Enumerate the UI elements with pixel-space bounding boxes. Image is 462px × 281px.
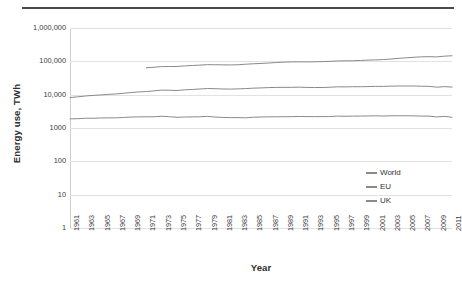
legend-label: World (380, 169, 401, 177)
y-tick-label: 1000 (50, 124, 66, 131)
x-tick-label: 1977 (195, 215, 202, 231)
x-tick-label: 1993 (317, 215, 324, 231)
legend-item-uk[interactable]: UK (366, 194, 452, 208)
x-tick-label: 1975 (180, 215, 187, 231)
legend-swatch-icon (366, 172, 377, 173)
x-tick-label: 1969 (134, 215, 141, 231)
x-tick-label: 2005 (409, 215, 416, 231)
x-tick-label: 1973 (165, 215, 172, 231)
x-tick-label: 1981 (226, 215, 233, 231)
gridline (70, 61, 452, 62)
y-tick-label: 1 (62, 224, 66, 231)
chart-figure: 1,000,000100,00010,0001000100101 Energy … (0, 0, 462, 281)
gridline (70, 95, 452, 96)
legend-label: UK (380, 197, 391, 205)
y-tick-label: 10 (58, 191, 66, 198)
gridline (70, 161, 452, 162)
y-tick-label: 100 (54, 157, 66, 164)
x-tick-labels: 1961196319651967196919711973197519771979… (70, 231, 452, 261)
x-tick-label: 1965 (104, 215, 111, 231)
gridline (70, 128, 452, 129)
x-tick-label: 1989 (287, 215, 294, 231)
x-tick-label: 1971 (149, 215, 156, 231)
x-tick-label: 2001 (379, 215, 386, 231)
x-tick-label: 1987 (272, 215, 279, 231)
chart-legend: WorldEUUK (366, 166, 452, 208)
x-tick-label: 1967 (119, 215, 126, 231)
legend-swatch-icon (366, 200, 377, 201)
x-tick-label: 2011 (455, 216, 462, 231)
x-tick-label: 1985 (256, 215, 263, 231)
x-tick-label: 1997 (348, 215, 355, 231)
x-tick-label: 1995 (333, 215, 340, 231)
legend-item-world[interactable]: World (366, 166, 452, 180)
legend-swatch-icon (366, 186, 377, 187)
x-tick-label: 2007 (424, 215, 431, 231)
y-tick-label: 10,000 (43, 91, 66, 98)
x-tick-label: 1983 (241, 215, 248, 231)
gridline (70, 28, 452, 29)
header-rule (22, 7, 454, 9)
legend-label: EU (380, 183, 391, 191)
y-axis-title: Energy use, TWh (11, 54, 22, 194)
y-tick-label: 1,000,000 (33, 24, 66, 31)
x-tick-label: 1979 (211, 215, 218, 231)
x-tick-label: 2003 (394, 215, 401, 231)
x-tick-label: 1961 (73, 215, 80, 231)
x-tick-label: 1991 (302, 215, 309, 231)
x-tick-label: 1963 (88, 215, 95, 231)
x-axis-title: Year (70, 262, 452, 273)
y-tick-label: 100,000 (39, 57, 66, 64)
legend-item-eu[interactable]: EU (366, 180, 452, 194)
x-tick-label: 1999 (363, 215, 370, 231)
x-tick-label: 2009 (440, 215, 447, 231)
